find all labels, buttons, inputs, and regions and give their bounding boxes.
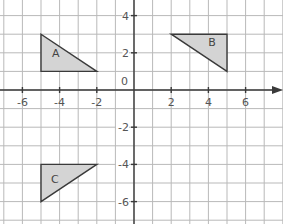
grid-canvas: ABC -6-4-224642-2-4-60 [0, 0, 283, 224]
y-tick-label: -2 [118, 121, 129, 134]
y-tick-label: -4 [118, 158, 129, 171]
x-tick-label: 2 [168, 96, 175, 109]
x-tick-label: -4 [54, 96, 65, 109]
x-axis-arrow-icon [272, 86, 283, 94]
x-tick-label: 4 [205, 96, 212, 109]
origin-label: 0 [121, 75, 128, 88]
coordinate-grid-diagram: ABC -6-4-224642-2-4-60 [0, 0, 283, 224]
triangle-label-b: B [208, 36, 216, 49]
y-tick-label: -6 [118, 196, 129, 209]
y-tick-label: 4 [122, 10, 129, 23]
triangle-label-a: A [52, 47, 60, 60]
y-tick-label: 2 [122, 47, 129, 60]
x-tick-label: -6 [17, 96, 28, 109]
x-tick-label: -2 [91, 96, 102, 109]
x-tick-label: 6 [242, 96, 249, 109]
triangle-label-c: C [51, 173, 59, 186]
